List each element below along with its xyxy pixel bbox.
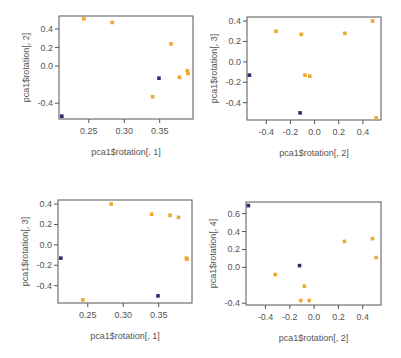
data-point-group-orange — [299, 299, 303, 303]
data-point-group-orange — [150, 212, 154, 216]
scatter-plot: -0.4-0.20.00.20.4-0.40.00.20.40.6pca1$ro… — [200, 180, 401, 358]
x-tick-label: 0.2 — [332, 127, 345, 137]
x-axis-label: pca1$rotation[, 1] — [91, 147, 161, 157]
data-point-group-orange — [186, 72, 190, 76]
data-point-group-orange — [371, 237, 375, 241]
plot-frame — [59, 16, 193, 119]
data-point-group-orange — [374, 116, 378, 120]
data-point-group-navy — [156, 294, 160, 298]
y-axis-label: pca1$rotation[, 3] — [209, 34, 219, 104]
y-tick-label: -0.4 — [36, 281, 52, 291]
y-tick-label: 0.4 — [228, 16, 241, 26]
x-tick-label: 0.25 — [79, 310, 97, 320]
y-tick-label: 0.0 — [39, 240, 52, 250]
plot-frame — [247, 17, 381, 120]
y-tick-label: 0.4 — [39, 199, 52, 209]
data-point-group-navy — [60, 114, 64, 118]
data-point-group-navy — [248, 73, 252, 77]
x-tick-label: -0.4 — [258, 312, 274, 322]
scatter-panel-pc2-pc3: -0.4-0.20.00.20.4-0.4-0.20.00.20.4pca1$r… — [200, 0, 401, 180]
x-tick-label: -0.2 — [283, 127, 299, 137]
scatter-panel-pc1-pc2: 0.250.300.35-0.40.00.20.4pca1$rotation[,… — [0, 0, 200, 180]
x-tick-label: 0.25 — [80, 126, 98, 136]
data-point-group-orange — [81, 298, 85, 302]
y-tick-label: -0.2 — [225, 77, 241, 87]
data-point-group-orange — [303, 284, 307, 288]
data-point-group-orange — [178, 75, 182, 79]
x-tick-label: -0.4 — [259, 127, 275, 137]
data-point-group-orange — [307, 299, 311, 303]
y-tick-label: 0.6 — [227, 209, 240, 219]
y-tick-label: 0.0 — [40, 61, 53, 71]
data-point-group-orange — [109, 202, 113, 206]
data-point-group-orange — [110, 21, 114, 25]
x-tick-label: 0.35 — [150, 310, 168, 320]
y-axis-label: pca1$rotation[, 2] — [21, 33, 31, 103]
x-tick-label: 0.4 — [357, 127, 370, 137]
y-tick-label: 0.4 — [40, 24, 53, 34]
data-point-group-orange — [371, 19, 375, 23]
y-tick-label: 0.0 — [227, 262, 240, 272]
y-tick-label: 0.2 — [227, 244, 240, 254]
data-point-group-orange — [168, 213, 172, 217]
y-tick-label: -0.4 — [37, 98, 53, 108]
data-point-group-navy — [247, 204, 251, 208]
data-point-group-orange — [374, 256, 378, 260]
data-point-group-navy — [298, 111, 302, 115]
data-point-group-navy — [59, 256, 63, 260]
scatter-plot: -0.4-0.20.00.20.4-0.4-0.20.00.20.4pca1$r… — [200, 0, 401, 180]
data-point-group-orange — [343, 240, 347, 244]
data-point-group-orange — [273, 273, 277, 277]
data-point-group-orange — [343, 32, 347, 36]
y-tick-label: 0.2 — [40, 43, 53, 53]
data-point-group-orange — [169, 42, 173, 46]
x-axis-label: pca1$rotation[, 1] — [90, 331, 160, 341]
x-tick-label: 0.0 — [308, 312, 321, 322]
y-tick-label: -0.2 — [36, 260, 52, 270]
x-tick-label: -0.2 — [282, 312, 298, 322]
data-point-group-navy — [298, 264, 302, 268]
scatter-panel-pc2-pc4: -0.4-0.20.00.20.4-0.40.00.20.40.6pca1$ro… — [200, 180, 401, 358]
scatter-plot: 0.250.300.35-0.4-0.20.00.20.4pca1$rotati… — [0, 180, 200, 358]
data-point-group-orange — [303, 73, 307, 77]
y-tick-label: -0.4 — [225, 98, 241, 108]
y-axis-label: pca1$rotation[, 4] — [208, 219, 218, 289]
y-tick-label: -0.4 — [224, 298, 240, 308]
data-point-group-orange — [151, 95, 155, 99]
y-tick-label: 0.4 — [227, 227, 240, 237]
x-tick-label: 0.30 — [115, 126, 133, 136]
data-point-group-navy — [157, 76, 161, 80]
data-point-group-orange — [300, 33, 304, 37]
data-point-group-orange — [82, 17, 86, 21]
data-point-group-orange — [308, 74, 312, 78]
data-point-group-orange — [177, 216, 181, 220]
y-tick-label: 0.0 — [228, 57, 241, 67]
y-tick-label: 0.2 — [39, 219, 52, 229]
x-axis-label: pca1$rotation[, 2] — [279, 148, 349, 158]
scatter-plot: 0.250.300.35-0.40.00.20.4pca1$rotation[,… — [0, 0, 200, 180]
x-tick-label: 0.35 — [151, 126, 169, 136]
x-tick-label: 0.2 — [332, 312, 345, 322]
data-point-group-orange — [185, 257, 189, 261]
y-tick-label: 0.2 — [228, 36, 241, 46]
plot-frame — [246, 202, 381, 305]
scatter-panel-pc1-pc3: 0.250.300.35-0.4-0.20.00.20.4pca1$rotati… — [0, 180, 200, 358]
x-axis-label: pca1$rotation[, 2] — [279, 333, 349, 343]
x-tick-label: 0.4 — [356, 312, 369, 322]
x-tick-label: 0.0 — [308, 127, 321, 137]
plot-frame — [58, 200, 192, 303]
data-point-group-orange — [274, 29, 278, 33]
y-axis-label: pca1$rotation[, 3] — [20, 217, 30, 287]
x-tick-label: 0.30 — [114, 310, 132, 320]
